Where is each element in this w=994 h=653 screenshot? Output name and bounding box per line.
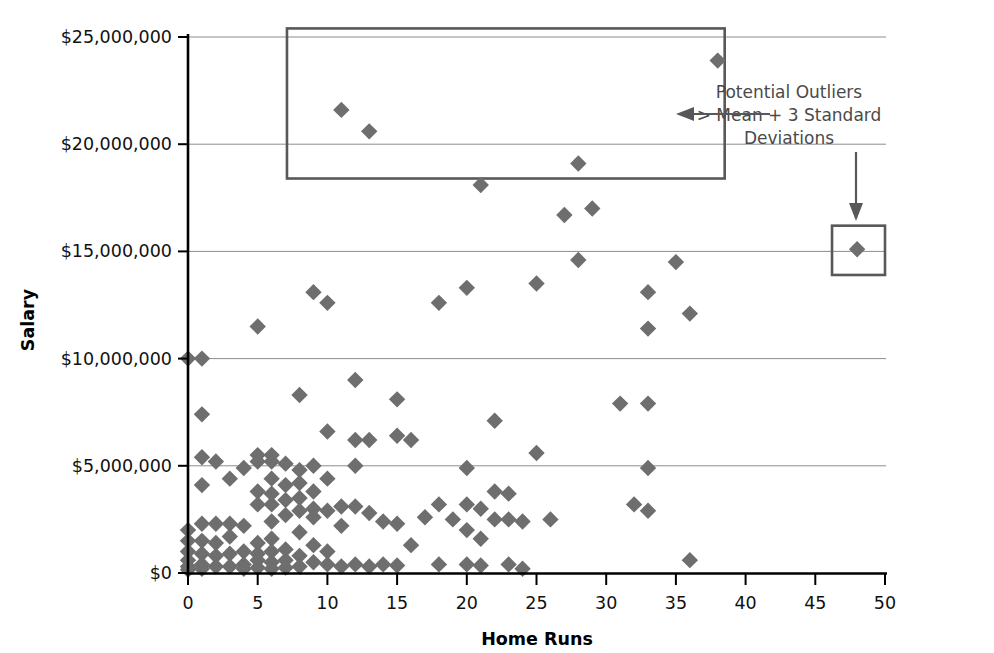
x-tick-label: 25 <box>525 593 547 613</box>
data-point-marker <box>194 406 210 422</box>
data-point-marker <box>459 522 475 538</box>
x-tick-label: 50 <box>874 593 896 613</box>
x-tick-label: 40 <box>734 593 756 613</box>
data-point-marker <box>473 557 489 573</box>
data-point-marker <box>236 460 252 476</box>
data-point-marker <box>305 483 321 499</box>
data-point-marker <box>459 556 475 572</box>
annotation-line-3: Deviations <box>744 128 834 148</box>
data-point-marker <box>263 496 279 512</box>
data-point-marker <box>319 423 335 439</box>
data-point-marker <box>403 537 419 553</box>
data-point-marker <box>305 509 321 525</box>
data-point-marker <box>347 458 363 474</box>
data-point-marker <box>682 305 698 321</box>
data-point-marker <box>222 528 238 544</box>
data-point-marker <box>208 453 224 469</box>
data-point-marker <box>194 350 210 366</box>
data-point-marker <box>612 395 628 411</box>
data-point-marker <box>375 513 391 529</box>
annotation-line-1: Potential Outliers <box>716 82 863 102</box>
data-point-marker <box>626 496 642 512</box>
x-tick-label: 45 <box>804 593 826 613</box>
data-point-marker <box>333 102 349 118</box>
y-axis: $0$5,000,000$10,000,000$15,000,000$20,00… <box>61 27 188 583</box>
data-point-marker <box>570 252 586 268</box>
data-point-marker <box>291 387 307 403</box>
data-point-marker <box>319 503 335 519</box>
data-point-marker <box>277 455 293 471</box>
data-point-marker <box>445 511 461 527</box>
data-point-marker <box>486 483 502 499</box>
data-point-marker <box>849 241 865 257</box>
data-point-marker <box>640 395 656 411</box>
y-axis-title: Salary <box>18 288 38 351</box>
data-point-marker <box>542 511 558 527</box>
upper-outlier-box <box>287 28 725 178</box>
x-tick-label: 20 <box>456 593 478 613</box>
data-point-marker <box>389 428 405 444</box>
chart-canvas: $0$5,000,000$10,000,000$15,000,000$20,00… <box>0 0 994 653</box>
data-point-marker <box>361 505 377 521</box>
data-point-marker <box>263 470 279 486</box>
data-point-marker <box>250 318 266 334</box>
y-tick-label: $20,000,000 <box>61 134 172 154</box>
highlight-boxes <box>287 28 885 275</box>
scatter-chart-figure: $0$5,000,000$10,000,000$15,000,000$20,00… <box>0 0 994 653</box>
data-point-marker <box>417 509 433 525</box>
data-point-marker <box>556 207 572 223</box>
data-point-marker <box>500 485 516 501</box>
data-point-marker <box>682 552 698 568</box>
x-tick-label: 30 <box>595 593 617 613</box>
data-point-marker <box>305 554 321 570</box>
data-point-marker <box>236 518 252 534</box>
data-point-marker <box>375 556 391 572</box>
data-point-marker <box>305 284 321 300</box>
data-point-marker <box>305 537 321 553</box>
y-tick-label: $15,000,000 <box>61 241 172 261</box>
data-point-marker <box>347 372 363 388</box>
data-point-marker <box>263 513 279 529</box>
data-point-marker <box>194 449 210 465</box>
data-point-marker <box>277 507 293 523</box>
x-axis: 05101520253035404550 <box>182 573 896 613</box>
data-point-marker <box>514 513 530 529</box>
data-point-marker <box>640 284 656 300</box>
data-point-marker <box>277 477 293 493</box>
data-point-marker <box>473 530 489 546</box>
data-point-marker <box>319 470 335 486</box>
data-point-marker <box>194 477 210 493</box>
x-tick-label: 10 <box>316 593 338 613</box>
data-point-marker <box>640 460 656 476</box>
data-point-marker <box>389 515 405 531</box>
data-point-marker <box>389 391 405 407</box>
data-point-marker <box>250 496 266 512</box>
data-point-marker <box>431 295 447 311</box>
data-point-marker <box>640 503 656 519</box>
data-point-marker <box>431 556 447 572</box>
data-point-marker <box>319 295 335 311</box>
data-point-marker <box>333 518 349 534</box>
x-tick-label: 5 <box>252 593 263 613</box>
y-tick-label: $10,000,000 <box>61 349 172 369</box>
data-point-marker <box>277 492 293 508</box>
y-tick-label: $0 <box>150 563 172 583</box>
annotation-group: Potential Outliers > Mean + 3 Standard D… <box>676 82 881 221</box>
data-point-marker <box>459 460 475 476</box>
data-point-marker <box>347 556 363 572</box>
data-point-marker <box>500 556 516 572</box>
x-tick-label: 15 <box>386 593 408 613</box>
data-point-marker <box>389 557 405 573</box>
x-axis-title: Home Runs <box>481 629 593 649</box>
data-point-marker <box>291 475 307 491</box>
data-point-marker <box>570 155 586 171</box>
data-point-marker <box>319 556 335 572</box>
data-point-marker <box>528 445 544 461</box>
data-point-marker <box>361 123 377 139</box>
data-point-marker <box>431 496 447 512</box>
x-tick-label: 35 <box>665 593 687 613</box>
data-point-marker <box>473 500 489 516</box>
data-point-marker <box>640 320 656 336</box>
data-point-marker <box>528 275 544 291</box>
data-point-marker <box>291 503 307 519</box>
